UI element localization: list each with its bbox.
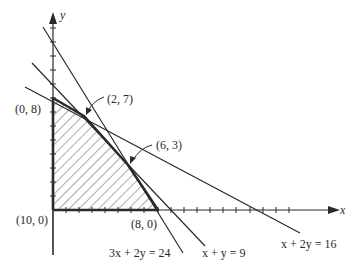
linear-programming-figure: y x (0, 8) (2, 7) (6, 3) (10, 0) (8, 0) …	[0, 0, 352, 271]
vertex-label-6-3: (6, 3)	[156, 138, 182, 152]
y-axis-label: y	[59, 8, 66, 22]
vertex-label-0-8: (0, 8)	[15, 102, 41, 116]
y-axis-arrow-icon	[49, 12, 57, 24]
vertex-label-origin: (10, 0)	[16, 213, 48, 227]
x-axis-arrow-icon	[328, 206, 340, 214]
vertex-label-2-7: (2, 7)	[107, 92, 133, 106]
line-label-x-2y-16: x + 2y = 16	[281, 237, 337, 251]
vertex-label-8-0: (8, 0)	[131, 217, 157, 231]
feasible-region	[53, 98, 158, 210]
line-label-3x-2y-24: 3x + 2y = 24	[109, 246, 171, 260]
x-axis-label: x	[339, 203, 346, 217]
line-label-x-y-9: x + y = 9	[202, 246, 246, 260]
